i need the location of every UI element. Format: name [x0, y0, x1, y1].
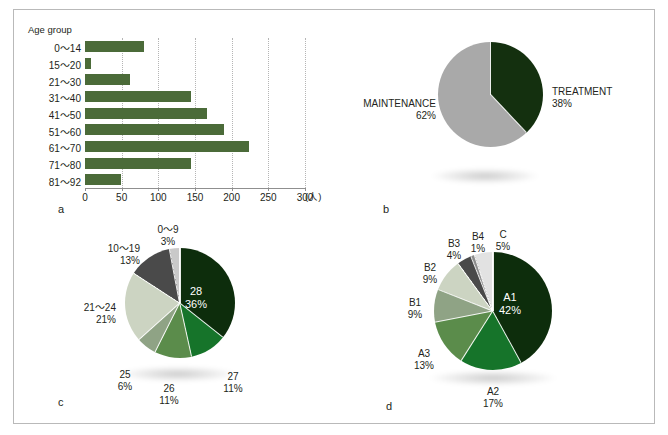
pie-c-label-26-pct: 11%: [159, 395, 178, 406]
bar-axis-tick: [195, 188, 196, 191]
pie-d-label-a1: A1 42%: [482, 291, 538, 316]
bar-axis-tick: [122, 188, 123, 191]
bar: [85, 108, 207, 119]
pie-b-label-treatment-pct: 38%: [552, 98, 572, 109]
panel-letter-a: a: [58, 203, 64, 215]
pie-d-label-b1-name: B1: [409, 297, 421, 308]
pie-d-label-b2: B2 9%: [413, 262, 447, 285]
bar-axis-tick: [158, 188, 159, 191]
pie-slice-separator: [461, 311, 494, 361]
pie-d-label-a3-name: A3: [418, 348, 430, 359]
bar: [85, 158, 191, 169]
pie-d-label-b4-name: B4: [472, 231, 484, 242]
bar-axis-tick: [232, 188, 233, 191]
pie-b-label-maintenance-name: MAINTENANCE: [363, 98, 436, 109]
pie-d-label-a1-name: A1: [503, 291, 516, 303]
pie-c-label-27: 27 11%: [216, 371, 250, 394]
pie-d-label-b3: B3 4%: [441, 238, 467, 261]
pie-b-label-treatment-name: TREATMENT: [552, 86, 612, 97]
pie-b-shadow: [430, 168, 540, 184]
bar-category-label: 61〜70: [23, 140, 81, 155]
pie-d-label-b2-name: B2: [424, 262, 436, 273]
pie-d-label-b2-pct: 9%: [423, 274, 437, 285]
pie-b-label-maintenance-pct: 62%: [416, 110, 436, 121]
bar-category-label: 0〜14: [23, 40, 81, 55]
pie-c-label-21-24-pct: 21%: [96, 314, 116, 325]
pie-d-label-c-name: C: [499, 229, 506, 240]
pie-c-label-28-pct: 36%: [185, 298, 207, 310]
pie-c-label-10-19-name: 10〜19: [108, 243, 140, 254]
bar-axis-tick: [268, 188, 269, 191]
pie-d-label-c-pct: 5%: [496, 241, 510, 252]
pie-c-label-0-9: 0〜9 3%: [146, 224, 190, 247]
bar: [85, 174, 121, 185]
bar-gridline: [268, 38, 269, 188]
pie-c-label-27-pct: 11%: [223, 383, 242, 394]
pie-d-label-b3-pct: 4%: [447, 250, 461, 261]
panel-letter-d: d: [386, 400, 392, 412]
pie-d-label-a1-pct: 42%: [499, 304, 521, 316]
bar: [85, 124, 224, 135]
bar-axis-tick-label: 100: [143, 192, 173, 203]
bar-axis-tick-label: 50: [107, 192, 137, 203]
bar-category-label: 71〜80: [23, 157, 81, 172]
bar-category-label: 81〜92: [23, 174, 81, 189]
pie-c-label-26-name: 26: [163, 383, 174, 394]
bar-gridline: [305, 38, 306, 188]
pie-c-label-0-9-name: 0〜9: [157, 224, 178, 235]
pie-slice-separator: [490, 42, 491, 95]
pie-c-label-21-24-name: 21〜24: [84, 302, 116, 313]
pie-b-label-treatment: TREATMENT 38%: [552, 86, 612, 109]
pie-c-label-27-name: 27: [227, 371, 238, 382]
pie-c-label-25-pct: 6%: [118, 381, 132, 392]
pie-d-label-b4: B4 1%: [466, 231, 490, 254]
pie-d-label-a2: A2 17%: [476, 386, 510, 409]
bar: [85, 41, 144, 52]
pie-c-label-25-name: 25: [119, 369, 130, 380]
pie-c-label-26: 26 11%: [152, 383, 186, 406]
panel-letter-b: b: [383, 203, 389, 215]
bar: [85, 58, 91, 69]
pie-d-shadow: [428, 370, 558, 386]
bar-gridline: [232, 38, 233, 188]
bar-category-label: 51〜60: [23, 124, 81, 139]
bar-chart-axis-title: Age group: [28, 25, 72, 36]
bar-axis-tick: [85, 188, 86, 191]
pie-d-label-a2-pct: 17%: [483, 398, 503, 409]
pie-slice-separator: [492, 311, 521, 363]
bar-axis-unit-label: (人): [305, 192, 321, 203]
bar-axis-tick-label: 0: [70, 192, 100, 203]
pie-b: [438, 42, 543, 147]
figure-canvas: Age group 0〜1415〜2021〜3031〜4041〜5051〜606…: [0, 0, 668, 435]
bar: [85, 141, 249, 152]
pie-b-label-maintenance: MAINTENANCE 62%: [354, 98, 436, 121]
pie-c-label-10-19: 10〜19 13%: [84, 243, 140, 266]
bar: [85, 91, 191, 102]
pie-d-label-b1-pct: 9%: [408, 309, 422, 320]
pie-c-label-0-9-pct: 3%: [161, 236, 175, 247]
pie-c-label-28-name: 28: [190, 285, 202, 297]
bar-axis-tick-label: 150: [180, 192, 210, 203]
pie-d-label-b1: B1 9%: [398, 297, 432, 320]
pie-c-label-10-19-pct: 13%: [120, 255, 140, 266]
pie-slice-separator: [490, 94, 527, 133]
pie-c-label-28: 28 36%: [168, 285, 224, 310]
panel-letter-c: c: [58, 396, 64, 408]
bar-category-label: 41〜50: [23, 107, 81, 122]
bar-category-label: 15〜20: [23, 57, 81, 72]
pie-c-label-21-24: 21〜24 21%: [54, 302, 116, 325]
pie-d-label-a3: A3 13%: [407, 348, 441, 371]
bar-category-label: 31〜40: [23, 90, 81, 105]
bar-axis-tick-label: 250: [253, 192, 283, 203]
bar-axis-tick-label: 200: [217, 192, 247, 203]
bar-plot-area: [85, 38, 305, 188]
pie-d-label-a3-pct: 13%: [414, 360, 434, 371]
pie-c-label-25: 25 6%: [108, 369, 142, 392]
pie-d-label-b3-name: B3: [448, 238, 460, 249]
pie-d-label-c: C 5%: [491, 229, 515, 252]
bar: [85, 74, 130, 85]
pie-d-label-a2-name: A2: [487, 386, 499, 397]
panel-a-bar-chart: Age group 0〜1415〜2021〜3031〜4041〜5051〜606…: [0, 0, 340, 215]
bar-category-label: 21〜30: [23, 74, 81, 89]
pie-d-label-b4-pct: 1%: [471, 243, 485, 254]
